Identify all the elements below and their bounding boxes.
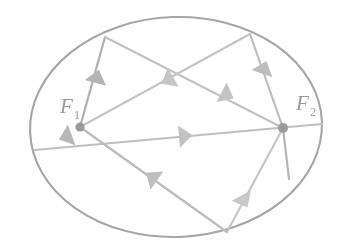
focus1-dot [75, 122, 84, 131]
ellipse-reflection-figure: F 1 F 2 [0, 0, 350, 249]
figure-background [0, 0, 350, 249]
focus1-subscript: 1 [74, 108, 80, 122]
focus2-subscript: 2 [310, 105, 316, 119]
focus2-dot [278, 123, 288, 133]
focus1-label: F [59, 94, 73, 118]
focus2-label: F [295, 91, 309, 115]
figure-canvas: F 1 F 2 [0, 0, 350, 249]
